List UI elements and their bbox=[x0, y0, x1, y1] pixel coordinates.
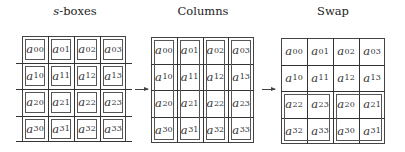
cell-index: 11 bbox=[319, 73, 329, 82]
column-outline bbox=[206, 40, 226, 140]
sbox-outline bbox=[51, 39, 71, 60]
cell-index: 03 bbox=[371, 47, 381, 56]
sbox-outline bbox=[77, 119, 97, 140]
column-outline bbox=[231, 40, 251, 140]
cell-index: 10 bbox=[293, 73, 303, 82]
cell-variable: a bbox=[363, 71, 370, 85]
sbox-outline bbox=[25, 66, 45, 87]
cell-variable: a bbox=[285, 44, 292, 58]
matrix-cell: a10 bbox=[281, 65, 307, 92]
matrix-cell: a12 bbox=[333, 65, 359, 92]
cell-variable: a bbox=[337, 71, 344, 85]
matrix-cell: a13 bbox=[359, 65, 385, 92]
panel-title-swap: Swap bbox=[278, 4, 388, 18]
cell-variable: a bbox=[285, 71, 292, 85]
title-rest: -boxes bbox=[59, 4, 96, 18]
sbox-outline bbox=[77, 39, 97, 60]
column-outline bbox=[180, 40, 200, 140]
matrix-cell: a00 bbox=[281, 38, 307, 65]
sbox-outline bbox=[103, 92, 123, 113]
column-outline bbox=[154, 40, 174, 140]
cell-index: 13 bbox=[371, 73, 381, 82]
cell-index: 00 bbox=[293, 47, 303, 56]
swap-block-outline bbox=[336, 94, 382, 141]
sbox-outline bbox=[25, 119, 45, 140]
swap-block-outline bbox=[284, 94, 330, 141]
cell-index: 12 bbox=[345, 73, 355, 82]
sbox-outline bbox=[103, 119, 123, 140]
sbox-outline bbox=[51, 92, 71, 113]
matrix-cell: a03 bbox=[359, 38, 385, 65]
matrix-cell: a11 bbox=[307, 65, 333, 92]
cell-index: 01 bbox=[319, 47, 329, 56]
sbox-outline bbox=[25, 39, 45, 60]
panel-title-columns: Columns bbox=[148, 4, 258, 18]
sbox-outline bbox=[51, 119, 71, 140]
arrow-right-2 bbox=[262, 89, 275, 90]
sbox-outline bbox=[77, 92, 97, 113]
cell-variable: a bbox=[337, 44, 344, 58]
matrix-cell: a01 bbox=[307, 38, 333, 65]
sbox-outline bbox=[77, 66, 97, 87]
cell-variable: a bbox=[311, 44, 318, 58]
cell-variable: a bbox=[363, 44, 370, 58]
cell-variable: a bbox=[311, 71, 318, 85]
sbox-outline bbox=[103, 39, 123, 60]
sbox-outline bbox=[51, 66, 71, 87]
cell-index: 02 bbox=[345, 47, 355, 56]
sbox-outline bbox=[103, 66, 123, 87]
matrix-cell: a02 bbox=[333, 38, 359, 65]
arrow-right-1 bbox=[135, 89, 148, 90]
sbox-outline bbox=[25, 92, 45, 113]
panel-title-sboxes: s-boxes bbox=[20, 4, 130, 18]
